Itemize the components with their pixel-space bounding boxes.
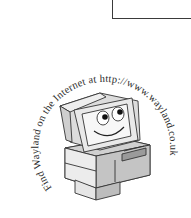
wayland-logo: Find Wayland on the Internet at http://w… <box>0 0 191 218</box>
smiling-computer-icon <box>60 93 150 200</box>
